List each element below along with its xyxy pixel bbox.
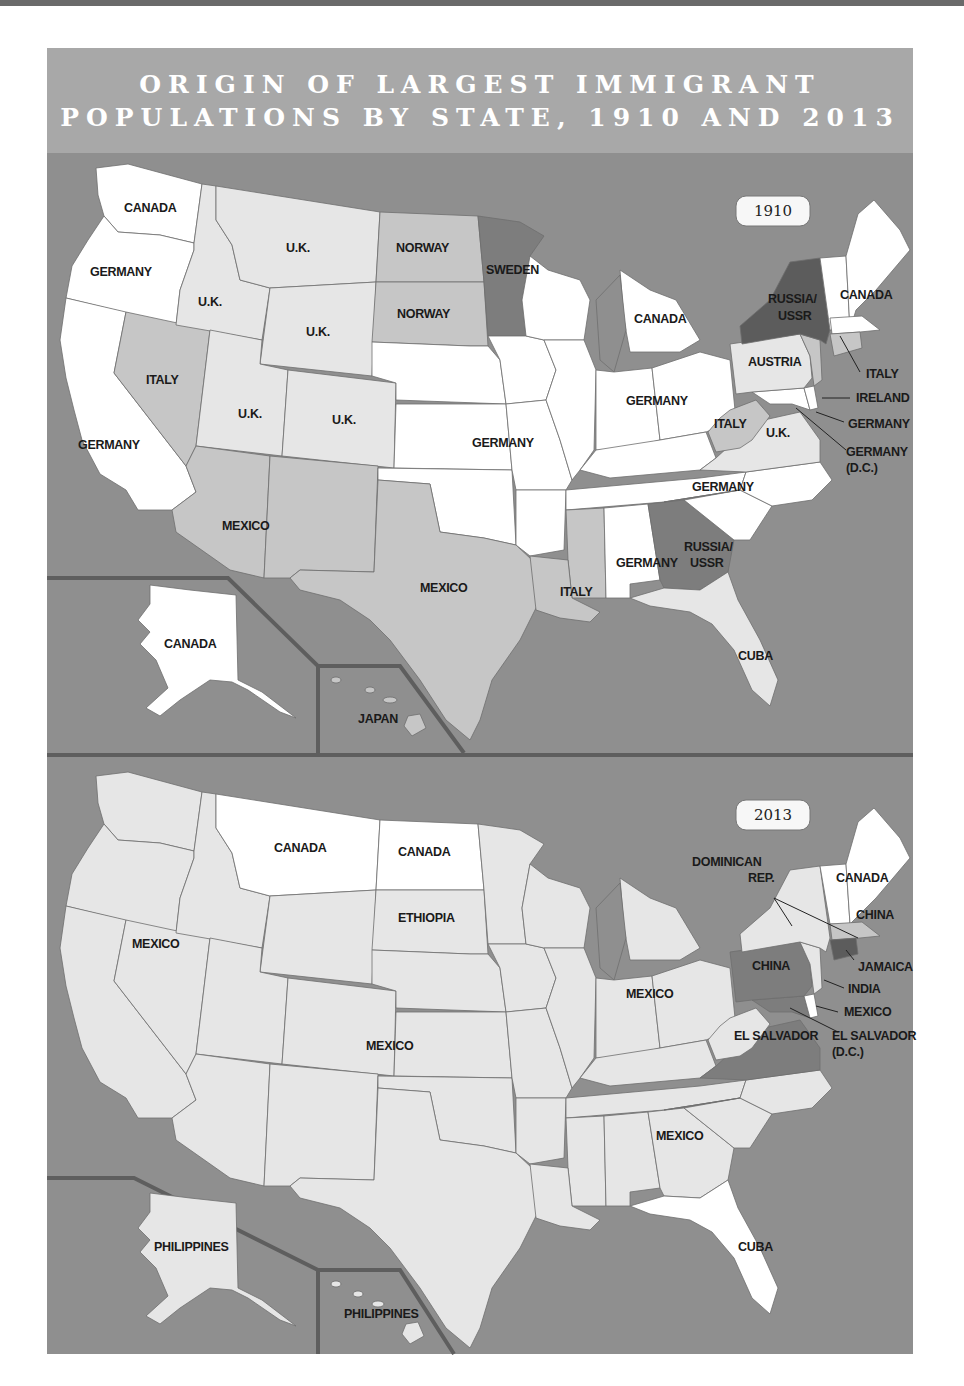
state-label: MEXICO (222, 519, 270, 533)
state-wisconsin (522, 864, 590, 948)
state-arkansas (516, 1098, 566, 1164)
state-label: INDIA (848, 982, 881, 996)
state-label: SWEDEN (486, 263, 539, 277)
state-label: RUSSIA/ (768, 292, 817, 306)
state-label: GERMANY (90, 265, 153, 279)
state-label: GERMANY (472, 436, 535, 450)
state-connecticut (830, 938, 858, 960)
state-maine (846, 200, 910, 330)
state-label: MEXICO (132, 937, 180, 951)
state-label: CHINA (752, 959, 790, 973)
state-massachusetts (830, 316, 880, 334)
leader-india-2013 (824, 980, 844, 988)
state-label: NORWAY (396, 241, 450, 255)
state-label: GERMANY (616, 556, 679, 570)
state-label: ITALY (146, 373, 179, 387)
state-label: USSR (778, 309, 812, 323)
lake-michigan (596, 275, 626, 372)
map-2013: 2013 CANADA CANADA ETHIOPIA MEXICO MEXIC… (47, 772, 916, 1354)
state-maine (846, 808, 910, 924)
state-label: PHILIPPINES (154, 1240, 229, 1254)
state-montana (216, 186, 380, 288)
state-florida (630, 572, 778, 706)
state-arkansas (516, 490, 566, 556)
state-label: CANADA (840, 288, 893, 302)
state-alaska (138, 1193, 296, 1326)
state-label: CANADA (164, 637, 217, 651)
state-arizona (172, 1054, 270, 1186)
state-label: GERMANY (848, 417, 911, 431)
state-label: REP. (748, 871, 774, 885)
state-colorado (282, 978, 396, 1076)
state-label: ITALY (714, 417, 747, 431)
state-label: MEXICO (626, 987, 674, 1001)
state-label: U.K. (306, 325, 330, 339)
state-label: JAPAN (358, 712, 398, 726)
map-1910: 1910 CANADA GERMANY GERMANY U.K. U.K. U.… (47, 164, 913, 755)
state-arizona (172, 446, 270, 578)
state-label: U.K. (286, 241, 310, 255)
state-label: (D.C.) (832, 1045, 864, 1059)
state-massachusetts (830, 922, 880, 940)
state-label: MEXICO (366, 1039, 414, 1053)
state-label: U.K. (198, 295, 222, 309)
state-michigan (620, 270, 700, 352)
state-label: MEXICO (844, 1005, 892, 1019)
state-label: U.K. (332, 413, 356, 427)
lake-michigan (596, 883, 626, 980)
leader-mexico-de-2013 (816, 1006, 838, 1012)
state-label: EL SALVADOR (734, 1029, 818, 1043)
state-label: JAMAICA (858, 960, 913, 974)
state-mississippi (566, 1116, 606, 1206)
state-new-mexico (264, 456, 378, 578)
state-label: (D.C.) (846, 461, 878, 475)
state-label: EL SALVADOR (832, 1029, 916, 1043)
state-label: ETHIOPIA (398, 911, 455, 925)
state-label: U.K. (766, 426, 790, 440)
state-new-mexico (264, 1064, 378, 1186)
state-hawaii (331, 677, 426, 736)
state-label: IRELAND (856, 391, 910, 405)
state-wyoming (260, 890, 376, 984)
state-label: CUBA (738, 1240, 773, 1254)
svg-text:2013: 2013 (754, 806, 792, 824)
year-badge-1910: 1910 (736, 196, 810, 226)
state-label: ITALY (560, 585, 593, 599)
maps-svg: .st{stroke:#6f6f6f;stroke-width:0.8;stro… (0, 0, 964, 1386)
state-label: ITALY (866, 367, 899, 381)
state-connecticut-ri (830, 332, 862, 356)
state-label: GERMANY (626, 394, 689, 408)
state-label: CANADA (634, 312, 687, 326)
state-label: MEXICO (420, 581, 468, 595)
state-label: GERMANY (78, 438, 141, 452)
state-alaska (138, 585, 296, 718)
state-label: NORWAY (397, 307, 451, 321)
state-label: DOMINICAN (692, 855, 762, 869)
state-label: CANADA (274, 841, 327, 855)
state-label: CUBA (738, 649, 773, 663)
year-badge-2013: 2013 (736, 800, 810, 830)
state-label: AUSTRIA (748, 355, 802, 369)
state-label: GERMANY (846, 445, 909, 459)
state-label: CHINA (856, 908, 894, 922)
state-label: GERMANY (692, 480, 755, 494)
state-label: PHILIPPINES (344, 1307, 419, 1321)
state-label: MEXICO (656, 1129, 704, 1143)
state-label: CANADA (124, 201, 177, 215)
state-label: CANADA (836, 871, 889, 885)
state-label: RUSSIA/ (684, 540, 733, 554)
state-michigan (620, 878, 700, 960)
state-indiana (596, 368, 660, 450)
state-label: USSR (690, 556, 724, 570)
leader-germany-de-1910 (816, 412, 844, 422)
state-label: CANADA (398, 845, 451, 859)
svg-text:1910: 1910 (754, 202, 792, 220)
state-label: U.K. (238, 407, 262, 421)
